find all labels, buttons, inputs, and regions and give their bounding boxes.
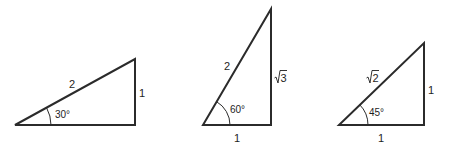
special-triangles-diagram: 30° 2 1 60° 2 3 1 45° 2 1 1 bbox=[0, 0, 450, 153]
hypotenuse-label-30: 2 bbox=[69, 78, 75, 90]
triangle-45-45-90: 45° 2 1 1 bbox=[339, 43, 434, 144]
opposite-label-sqrt3: 3 bbox=[275, 71, 288, 85]
hypotenuse-label-sqrt2: 2 bbox=[367, 71, 380, 85]
angle-label-60: 60° bbox=[230, 104, 245, 115]
triangle-30-60-90-b: 60° 2 3 1 bbox=[203, 9, 287, 144]
opposite-label-45: 1 bbox=[428, 84, 434, 96]
adjacent-label-45: 1 bbox=[378, 132, 384, 144]
hypotenuse-label-60: 2 bbox=[224, 60, 230, 72]
angle-label-30: 30° bbox=[55, 109, 70, 120]
angle-arc-60 bbox=[217, 102, 230, 125]
triangle-30-60-90-a: 30° 2 1 bbox=[15, 59, 145, 125]
radicand-2: 2 bbox=[373, 72, 379, 84]
opposite-label-30: 1 bbox=[139, 87, 145, 99]
angle-arc-30 bbox=[47, 108, 52, 125]
adjacent-label-60: 1 bbox=[234, 132, 240, 144]
angle-arc-45 bbox=[360, 105, 369, 126]
triangle-30-shape bbox=[15, 59, 135, 125]
angle-label-45: 45° bbox=[369, 107, 384, 118]
radicand-3: 3 bbox=[281, 72, 287, 84]
